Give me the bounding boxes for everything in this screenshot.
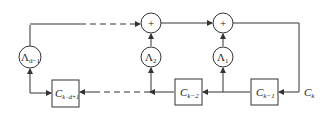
reg-k-1-label: Ck−1: [256, 86, 275, 100]
reg-k-2-label: Ck−2: [180, 86, 199, 100]
wire-feedback-Ck: [233, 23, 299, 92]
adder-right-symbol: +: [220, 17, 226, 29]
mult-2-label: Λ2: [145, 51, 157, 65]
adder-left-symbol: +: [148, 17, 154, 29]
diagram-canvas: + + Λd−1 Λ2 Λ1 Ck−d+1 Ck−2 Ck−1 Ck: [0, 0, 326, 114]
mult-d-1-label: Λd−1: [21, 51, 40, 65]
input-Ck-label: Ck: [304, 86, 315, 100]
feedback-diagram: + + Λd−1 Λ2 Λ1 Ck−d+1 Ck−2 Ck−1 Ck: [0, 0, 326, 114]
mult-1-label: Λ1: [217, 51, 229, 65]
reg-k-d+1-label: Ck−d+1: [55, 87, 79, 100]
